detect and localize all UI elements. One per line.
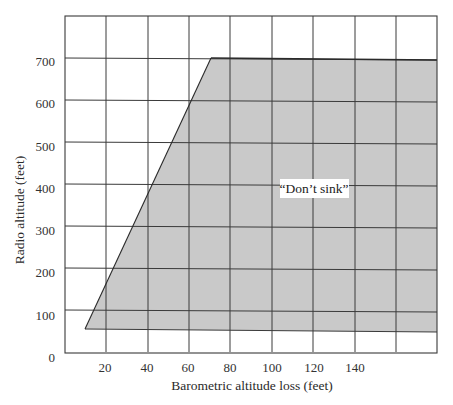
y-tick-0: 0 <box>49 350 56 365</box>
y-tick-700: 700 <box>36 54 56 69</box>
y-tick-600: 600 <box>36 96 56 111</box>
y-tick-100: 100 <box>36 308 56 323</box>
dont-sink-region <box>85 58 437 332</box>
x-tick-20: 20 <box>99 360 112 375</box>
y-tick-500: 500 <box>36 139 56 154</box>
chart: 0 100 200 300 400 500 600 700 20 40 60 8… <box>0 0 453 405</box>
y-axis-label: Radio altitude (feet) <box>12 156 27 265</box>
y-tick-300: 300 <box>36 223 56 238</box>
x-tick-80: 80 <box>224 360 237 375</box>
x-tick-40: 40 <box>141 360 154 375</box>
x-tick-labels: 20 40 60 80 100 120 140 <box>99 360 365 375</box>
x-tick-140: 140 <box>345 360 365 375</box>
x-tick-60: 60 <box>182 360 195 375</box>
x-tick-120: 120 <box>304 360 324 375</box>
x-tick-100: 100 <box>262 360 282 375</box>
x-axis-label: Barometric altitude loss (feet) <box>171 378 333 393</box>
y-tick-400: 400 <box>36 181 56 196</box>
dont-sink-annotation: “Don’t sink” <box>279 181 348 196</box>
y-tick-200: 200 <box>36 265 56 280</box>
y-tick-labels: 0 100 200 300 400 500 600 700 <box>36 54 56 365</box>
